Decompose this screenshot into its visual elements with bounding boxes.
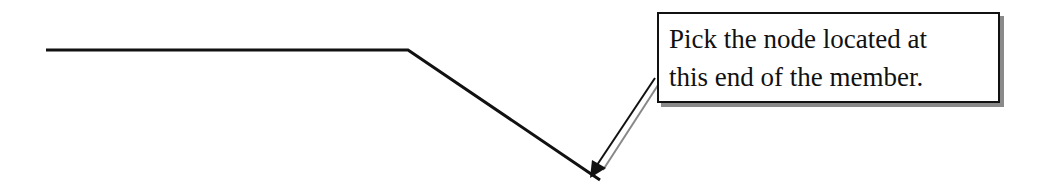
- callout-text: Pick the node located at this end of the…: [669, 20, 927, 96]
- callout-box: Pick the node located at this end of the…: [657, 12, 1000, 103]
- callout-arrow-shadow: [603, 82, 660, 170]
- member-line: [46, 50, 600, 180]
- callout-line-1: Pick the node located at: [669, 20, 927, 58]
- callout-line-2: this end of the member.: [669, 58, 927, 96]
- callout-arrow-shaft: [597, 78, 655, 165]
